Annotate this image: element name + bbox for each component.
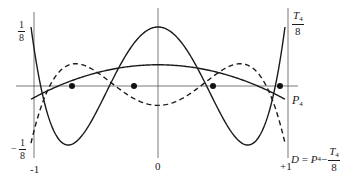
- label-t4-over-8: T4 8: [292, 10, 304, 37]
- y-tick-plus-one-eighth: 1 8: [18, 20, 25, 43]
- intersection-dot: [69, 83, 75, 89]
- x-tick-zero: 0: [155, 161, 161, 172]
- y-tick-minus-one-eighth: 1 8: [19, 138, 26, 161]
- intersection-dot: [131, 83, 137, 89]
- y-tick-minus-sign: −: [11, 144, 17, 154]
- intersection-dot: [210, 83, 216, 89]
- label-p4: P4: [292, 94, 303, 108]
- x-tick-plus-one: +1: [280, 161, 292, 172]
- intersection-dot: [277, 83, 283, 89]
- label-d-equation: D = P4 − T4 8: [291, 146, 340, 173]
- x-tick-minus-one: -1: [30, 164, 39, 175]
